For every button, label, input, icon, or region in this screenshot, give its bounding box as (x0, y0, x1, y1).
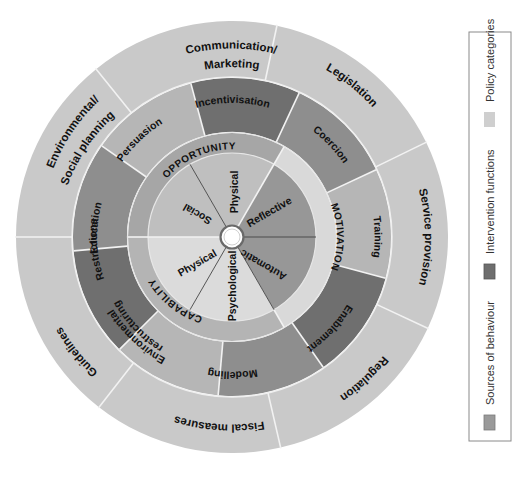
sector-physical-opportunity: Physical (228, 171, 240, 214)
legend-label-intervention: Intervention functions (484, 149, 496, 254)
intervention-training: Training (371, 215, 385, 258)
legend-swatch-intervention (484, 264, 495, 279)
legend-label-policy: Policy categories (484, 18, 496, 102)
legend-swatch-policy (484, 112, 495, 127)
legend-label-sources: Sources of behaviour (484, 301, 496, 405)
sector-psychological: Psychological (226, 251, 238, 322)
center-hub-inner (224, 229, 240, 245)
behaviour-change-wheel: Communication/ Marketing Legislation Ser… (0, 0, 530, 487)
legend: Sources of behaviour Intervention functi… (469, 18, 511, 441)
legend-swatch-sources (484, 415, 495, 430)
